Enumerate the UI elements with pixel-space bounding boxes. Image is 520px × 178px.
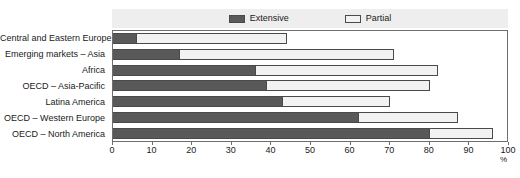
bar-segment-extensive xyxy=(113,128,430,139)
bar-row xyxy=(113,65,507,76)
y-axis-label: Latina America xyxy=(0,97,108,108)
y-axis-labels: Central and Eastern EuropeEmerging marke… xyxy=(0,30,108,142)
x-axis-tick-label: 30 xyxy=(226,146,236,155)
x-axis-tick-label: 60 xyxy=(345,146,355,155)
y-axis-label: OECD – North America xyxy=(0,129,108,140)
bar-row xyxy=(113,80,507,91)
y-axis-label: OECD – Western Europe xyxy=(0,113,108,124)
bar-segment-extensive xyxy=(113,112,359,123)
y-axis-label: Central and Eastern Europe xyxy=(0,33,108,44)
legend-entry-partial[interactable]: Partial xyxy=(345,14,392,23)
bar-row xyxy=(113,112,507,123)
bar-segment-extensive xyxy=(113,33,137,44)
clipped-title xyxy=(112,0,508,6)
x-axis-tick-label: 100 xyxy=(500,146,515,155)
x-axis-tick-label: 0 xyxy=(109,146,114,155)
legend-entry-extensive[interactable]: Extensive xyxy=(229,14,289,23)
x-axis-tick-label: 90 xyxy=(463,146,473,155)
bar-row xyxy=(113,96,507,107)
bar-segment-partial xyxy=(267,80,429,91)
bar-segment-partial xyxy=(283,96,390,107)
x-axis-tick-label: 70 xyxy=(384,146,394,155)
bar-row xyxy=(113,49,507,60)
bar-segment-partial xyxy=(430,128,493,139)
bar-row xyxy=(113,33,507,44)
figure-container: Extensive Partial Central and Eastern Eu… xyxy=(0,0,520,178)
bar-segment-partial xyxy=(256,65,438,76)
y-axis-label: Emerging markets – Asia xyxy=(0,49,108,60)
bar-segment-extensive xyxy=(113,65,256,76)
bar-row xyxy=(113,128,507,139)
plot-area xyxy=(112,30,508,142)
bar-segment-partial xyxy=(359,112,458,123)
y-axis-label: Africa xyxy=(0,65,108,76)
legend-label-extensive: Extensive xyxy=(250,14,289,23)
x-axis-tick-label: 80 xyxy=(424,146,434,155)
x-axis-unit-label: % xyxy=(112,155,508,164)
bar-segment-partial xyxy=(137,33,287,44)
y-axis-label: OECD – Asia-Pacific xyxy=(0,81,108,92)
x-axis-tick-label: 40 xyxy=(265,146,275,155)
bar-segment-extensive xyxy=(113,49,180,60)
chart-legend: Extensive Partial xyxy=(112,9,508,28)
x-axis-tick-label: 10 xyxy=(147,146,157,155)
x-axis-tick-label: 50 xyxy=(305,146,315,155)
legend-label-partial: Partial xyxy=(366,14,392,23)
bar-rows xyxy=(113,31,507,141)
bar-segment-partial xyxy=(180,49,394,60)
x-axis-tick-label: 20 xyxy=(186,146,196,155)
bar-segment-extensive xyxy=(113,96,283,107)
bar-segment-extensive xyxy=(113,80,267,91)
legend-swatch-extensive-icon xyxy=(229,15,245,23)
legend-swatch-partial-icon xyxy=(345,15,361,23)
